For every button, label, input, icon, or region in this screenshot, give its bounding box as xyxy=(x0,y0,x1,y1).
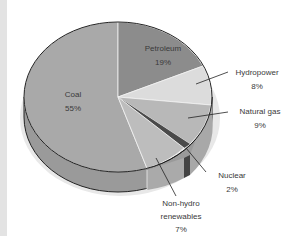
label-natural-gas-pct: 9% xyxy=(254,121,266,130)
label-hydropower-name: Hydropower xyxy=(235,68,278,77)
label-nuclear-pct: 2% xyxy=(226,185,238,194)
label-nuclear-name: Nuclear xyxy=(218,171,246,180)
side-nuclear xyxy=(184,155,190,178)
label-petroleum-name: Petroleum xyxy=(145,44,182,53)
label-hydropower-pct: 8% xyxy=(251,82,263,91)
label-renewables-pct: 7% xyxy=(175,225,187,234)
label-coal-pct: 55% xyxy=(65,104,81,113)
pie-chart: Petroleum 19% Coal 55% Hydropower 8% Nat… xyxy=(0,0,303,236)
label-renewables-line1: Non-hydro xyxy=(162,199,200,208)
label-natural-gas-name: Natural gas xyxy=(240,107,281,116)
label-coal-name: Coal xyxy=(65,90,82,99)
label-renewables-line2: renewables xyxy=(161,212,202,221)
label-petroleum-pct: 19% xyxy=(155,58,171,67)
